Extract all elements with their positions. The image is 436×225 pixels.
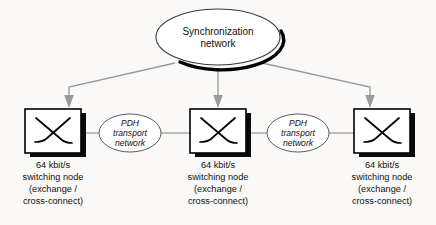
node-right-caption-line4: cross-connect) [352, 196, 412, 206]
node-middle-caption-line2: switching node [188, 172, 249, 182]
node-left-caption-line4: cross-connect) [23, 196, 83, 206]
node-middle-caption-line4: cross-connect) [188, 196, 248, 206]
sync-ellipse-outline [156, 9, 280, 65]
switching-node-middle[interactable]: 64 kbit/s switching node (exchange / cro… [188, 109, 251, 206]
pdh-right-label-line2: transport [281, 128, 316, 138]
node-right-box [354, 109, 410, 153]
sync-arrow-to-right-node [262, 63, 375, 108]
node-middle-caption-line1: 64 kbit/s [201, 160, 236, 170]
synchronization-network-ellipse[interactable]: Synchronization network [156, 9, 284, 70]
switching-node-left[interactable]: 64 kbit/s switching node (exchange / cro… [23, 109, 86, 206]
sync-arrow-to-left-node [64, 63, 175, 108]
node-left-caption-line3: (exchange / [29, 184, 77, 194]
node-right-caption-line2: switching node [352, 172, 413, 182]
pdh-right-label-line1: PDH [289, 118, 308, 128]
pdh-left-label-line1: PDH [121, 118, 140, 128]
sync-arrow-to-middle-node [213, 70, 223, 108]
node-middle-caption-line3: (exchange / [194, 184, 242, 194]
sync-ellipse-label-line2: network [200, 38, 236, 49]
node-right-caption-line3: (exchange / [358, 184, 406, 194]
pdh-left-label-line3: network [115, 138, 146, 148]
node-left-caption-line1: 64 kbit/s [36, 160, 71, 170]
network-topology-svg: Synchronization network PDH transport ne… [0, 0, 436, 225]
node-right-caption-line1: 64 kbit/s [365, 160, 400, 170]
switching-node-right[interactable]: 64 kbit/s switching node (exchange / cro… [352, 109, 415, 206]
pdh-transport-network-right[interactable]: PDH transport network [267, 114, 329, 152]
node-middle-box [190, 109, 246, 153]
node-left-box [25, 109, 81, 153]
pdh-right-label-line3: network [283, 138, 314, 148]
pdh-transport-network-left[interactable]: PDH transport network [99, 114, 161, 152]
node-left-caption-line2: switching node [23, 172, 84, 182]
pdh-left-label-line2: transport [113, 128, 148, 138]
diagram-canvas: Synchronization network PDH transport ne… [0, 0, 436, 225]
sync-ellipse-label-line1: Synchronization [182, 26, 253, 37]
